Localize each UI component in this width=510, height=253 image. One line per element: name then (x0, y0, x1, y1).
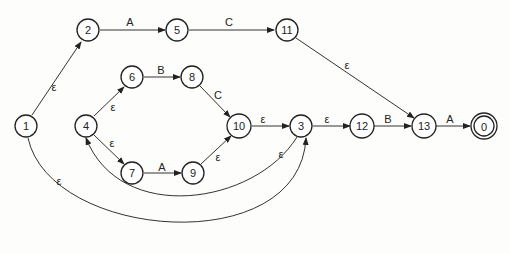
svg-text:5: 5 (174, 24, 180, 36)
state-12: 12 (350, 114, 374, 138)
svg-text:4: 4 (83, 120, 89, 132)
edge-label-1-3: ε (57, 175, 62, 187)
state-0-accepting: 0 (471, 113, 497, 139)
edge-4-6 (94, 87, 124, 116)
edge-label-3-4: ε (279, 148, 284, 160)
edge-label-12-13: B (384, 113, 391, 125)
state-5: 5 (166, 19, 188, 41)
state-13: 13 (412, 114, 436, 138)
svg-text:2: 2 (85, 24, 91, 36)
state-4: 4 (75, 115, 97, 137)
edge-1-3 (28, 138, 306, 222)
svg-text:10: 10 (233, 120, 245, 132)
edge-1-2 (32, 42, 81, 115)
svg-text:8: 8 (189, 71, 195, 83)
svg-text:6: 6 (129, 71, 135, 83)
edge-label-4-7: ε (110, 137, 115, 149)
state-6: 6 (121, 66, 143, 88)
nodes: 1 2 5 11 6 8 4 10 3 12 13 0 7 9 (15, 19, 497, 184)
edge-labels: ε A C ε ε B C ε A ε ε ε B A ε ε (52, 16, 455, 187)
edge-label-2-5: A (126, 16, 134, 28)
edge-label-1-2: ε (52, 81, 57, 93)
svg-text:13: 13 (418, 120, 430, 132)
svg-text:3: 3 (298, 120, 304, 132)
edge-label-5-11: C (225, 16, 233, 28)
svg-text:12: 12 (356, 120, 368, 132)
edge-label-7-9: A (158, 161, 166, 173)
edge-label-11-13: ε (345, 59, 350, 71)
state-11: 11 (276, 19, 298, 41)
edge-label-6-8: B (157, 64, 164, 76)
svg-text:1: 1 (23, 120, 29, 132)
state-1: 1 (15, 115, 37, 137)
svg-text:7: 7 (129, 167, 135, 179)
edge-11-13 (296, 38, 414, 118)
edge-label-9-10: ε (216, 151, 221, 163)
edge-label-13-0: A (446, 113, 454, 125)
state-8: 8 (181, 66, 203, 88)
edge-label-8-10: C (214, 89, 222, 101)
nfa-diagram: ε A C ε ε B C ε A ε ε ε B A ε ε 1 2 5 11… (0, 0, 510, 253)
state-7: 7 (121, 162, 143, 184)
svg-text:0: 0 (481, 121, 487, 133)
state-9: 9 (182, 162, 204, 184)
edge-label-4-6: ε (111, 101, 116, 113)
svg-text:9: 9 (190, 167, 196, 179)
edge-label-10-3: ε (261, 113, 266, 125)
state-2: 2 (77, 19, 99, 41)
state-3: 3 (290, 115, 312, 137)
svg-text:11: 11 (281, 24, 292, 36)
edge-label-3-12: ε (325, 113, 330, 125)
state-10: 10 (227, 114, 251, 138)
